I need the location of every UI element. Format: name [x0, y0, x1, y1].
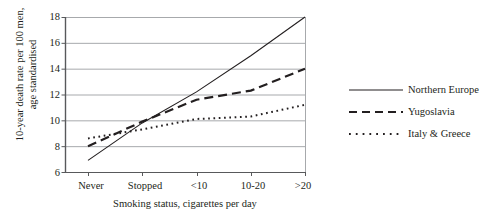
axis-ticks — [62, 18, 306, 177]
legend-item-northern-europe[interactable]: Northern Europe — [348, 79, 483, 101]
legend-swatch-solid-icon — [348, 84, 404, 96]
series-line-northern-europe — [88, 17, 305, 160]
legend-swatch-dotted-icon — [348, 128, 404, 140]
gridlines — [66, 18, 306, 173]
legend-label-northern-europe: Northern Europe — [404, 84, 479, 96]
chart-figure: 10-year death rate per 100 men, age stan… — [0, 0, 483, 221]
legend-item-yugoslavia[interactable]: Yugoslavia — [348, 101, 483, 123]
series-line-italy-greece — [88, 105, 305, 139]
legend-item-italy-greece[interactable]: Italy & Greece — [348, 123, 483, 145]
legend-label-italy-greece: Italy & Greece — [404, 128, 470, 140]
data-series-group — [88, 17, 305, 160]
series-line-yugoslavia — [88, 69, 305, 147]
chart-legend: Northern Europe Yugoslavia Italy & Greec… — [348, 79, 483, 145]
legend-swatch-dashed-icon — [348, 106, 404, 118]
legend-label-yugoslavia: Yugoslavia — [404, 106, 455, 118]
